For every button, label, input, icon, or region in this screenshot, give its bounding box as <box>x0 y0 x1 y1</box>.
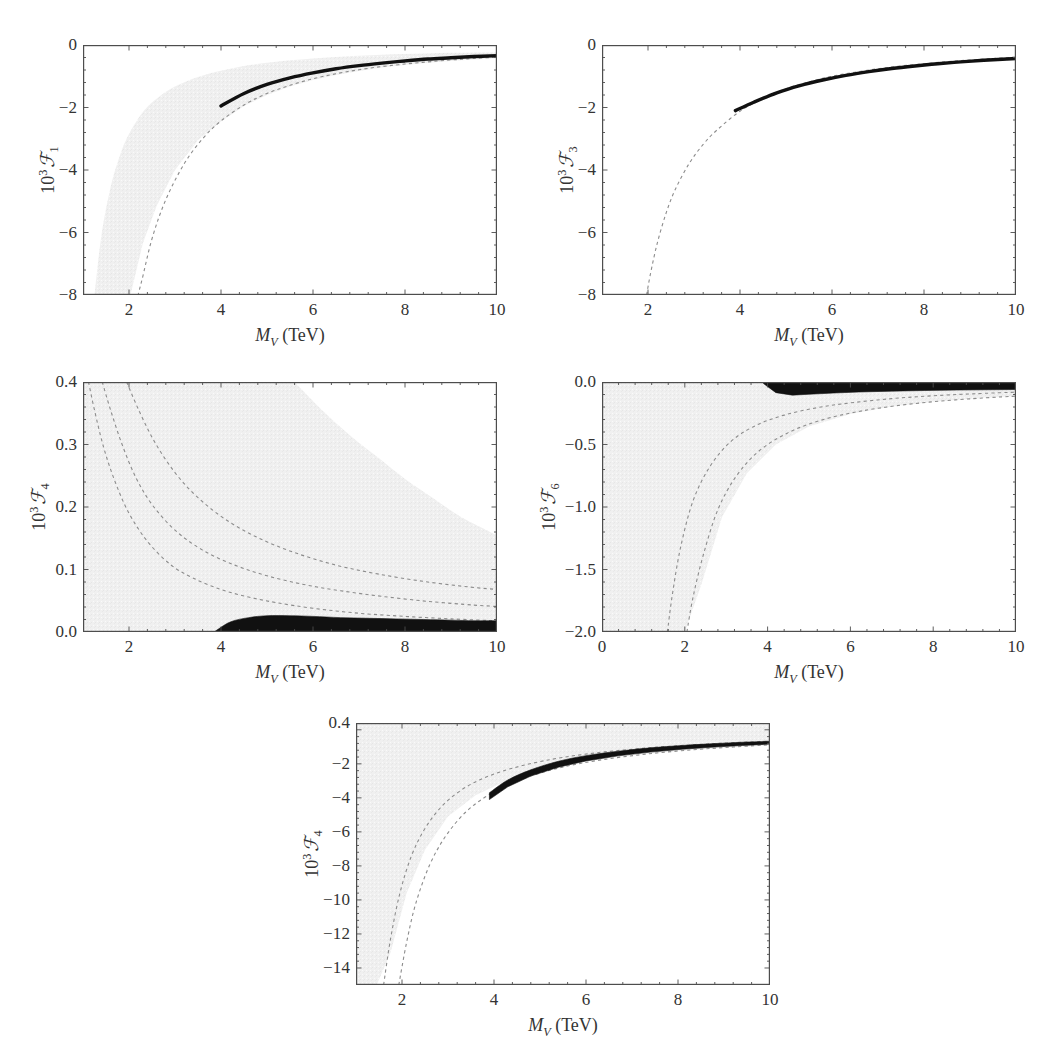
figure-panel-grid: 2468100−2−4−6−8MV (TeV)103ℱ12468100−2−4−… <box>0 0 1047 1054</box>
panel-f6-xtick-label: 4 <box>763 637 772 657</box>
panel-f1-grey-region <box>95 52 498 295</box>
panel-f6-yaxis-title: 103ℱ6 <box>524 496 571 519</box>
panel-f4-lower-ytick-label: −10 <box>323 890 350 910</box>
panel-f4-upper-canvas <box>83 382 497 632</box>
panel-f3-ytick-label: 0 <box>587 35 596 55</box>
panel-f6-xtick-label: 6 <box>846 637 855 657</box>
panel-f4-lower-ytick-label: −2 <box>332 754 350 774</box>
panel-f3-black-curve <box>735 58 1016 110</box>
panel-f3-xaxis-title: MV (TeV) <box>774 325 844 346</box>
panel-f6: 02468100.0−0.5−1.0−1.5−2.0MV (TeV)103ℱ6 <box>602 382 1016 632</box>
panel-f4-lower-xtick-label: 6 <box>582 990 591 1010</box>
panel-f1-canvas <box>83 45 497 295</box>
panel-f6-ytick-label: −2.0 <box>565 622 596 642</box>
panel-f4-upper-xtick-label: 8 <box>401 637 410 657</box>
panel-f4-lower-xaxis-title: MV (TeV) <box>528 1015 598 1036</box>
panel-f1-xtick-label: 6 <box>309 300 318 320</box>
panel-f3-xtick-label: 6 <box>828 300 837 320</box>
panel-f4-lower-ytick-label: −12 <box>323 924 350 944</box>
panel-f4-lower-ytick-label: −6 <box>332 822 350 842</box>
panel-f4-upper-ytick-label: 0.0 <box>55 622 77 642</box>
panel-f4-upper-xtick-label: 6 <box>309 637 318 657</box>
panel-f4-upper-ytick-label: 0.4 <box>55 372 77 392</box>
panel-f4-lower-xtick-label: 10 <box>762 990 779 1010</box>
panel-f3-xtick-label: 2 <box>644 300 653 320</box>
panel-f3-dashed-curve-1 <box>647 57 1016 295</box>
panel-f4-lower-ytick-label: −14 <box>323 958 350 978</box>
panel-f1: 2468100−2−4−6−8MV (TeV)103ℱ1 <box>83 45 497 295</box>
panel-f1-xtick-label: 2 <box>125 300 134 320</box>
panel-f3-yaxis-title: 103ℱ3 <box>542 159 589 182</box>
panel-f3-xtick-label: 8 <box>920 300 929 320</box>
panel-f3: 2468100−2−4−6−8MV (TeV)103ℱ3 <box>602 45 1016 295</box>
panel-f4-upper-yaxis-title: 103ℱ4 <box>14 496 61 519</box>
panel-f4-lower-xtick-label: 2 <box>398 990 407 1010</box>
panel-f4-lower-xtick-label: 4 <box>490 990 499 1010</box>
panel-f1-xtick-label: 4 <box>217 300 226 320</box>
panel-f3-ytick-label: −2 <box>578 98 596 118</box>
panel-f4-lower: 2468100.4−2−4−6−8−10−12−14MV (TeV)103ℱ4 <box>356 723 770 985</box>
panel-f6-xtick-label: 10 <box>1008 637 1025 657</box>
panel-f6-xtick-label: 8 <box>929 637 938 657</box>
panel-f4-lower-xtick-label: 8 <box>674 990 683 1010</box>
panel-f3-xtick-label: 4 <box>736 300 745 320</box>
panel-f6-canvas <box>602 382 1016 632</box>
panel-f4-upper-xtick-label: 2 <box>125 637 134 657</box>
panel-f4-upper: 2468100.40.30.20.10.0MV (TeV)103ℱ4 <box>83 382 497 632</box>
panel-f6-xtick-label: 0 <box>598 637 607 657</box>
panel-f1-ytick-label: 0 <box>68 35 77 55</box>
panel-f4-upper-xtick-label: 4 <box>217 637 226 657</box>
panel-f6-xtick-label: 2 <box>681 637 690 657</box>
panel-f6-grey-region <box>602 382 1016 632</box>
panel-f6-xaxis-title: MV (TeV) <box>774 662 844 683</box>
panel-f4-upper-ytick-label: 0.3 <box>55 435 77 455</box>
panel-f1-xtick-label: 10 <box>489 300 506 320</box>
panel-f1-xaxis-title: MV (TeV) <box>255 325 325 346</box>
panel-f6-ytick-label: 0.0 <box>574 372 596 392</box>
panel-f1-ytick-label: −8 <box>59 285 77 305</box>
panel-f3-xtick-label: 10 <box>1008 300 1025 320</box>
panel-f4-lower-yaxis-title: 103ℱ4 <box>287 843 334 866</box>
panel-f4-upper-xtick-label: 10 <box>489 637 506 657</box>
panel-f6-ytick-label: −1.5 <box>565 560 596 580</box>
panel-f3-canvas <box>602 45 1016 295</box>
panel-f6-ytick-label: −0.5 <box>565 435 596 455</box>
panel-f1-yaxis-title: 103ℱ1 <box>23 159 70 182</box>
panel-f1-ytick-label: −6 <box>59 223 77 243</box>
panel-f4-upper-ytick-label: 0.1 <box>55 560 77 580</box>
panel-f1-ytick-label: −2 <box>59 98 77 118</box>
panel-f3-ytick-label: −6 <box>578 223 596 243</box>
panel-f4-lower-ytick-label: 0.4 <box>328 713 350 733</box>
panel-f3-ytick-label: −8 <box>578 285 596 305</box>
panel-f1-xtick-label: 8 <box>401 300 410 320</box>
panel-f4-upper-xaxis-title: MV (TeV) <box>255 662 325 683</box>
panel-f4-lower-canvas <box>356 723 770 985</box>
panel-f4-lower-ytick-label: −4 <box>332 788 350 808</box>
